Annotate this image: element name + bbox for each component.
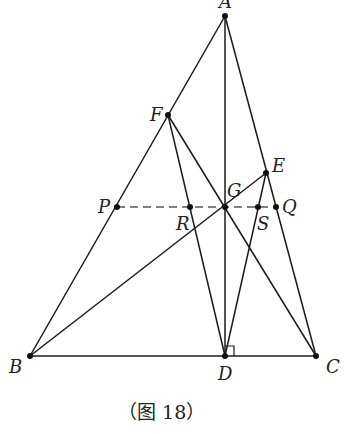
point-S <box>255 204 261 210</box>
segment-FC <box>168 115 316 356</box>
label-E: E <box>271 155 285 176</box>
point-E <box>263 170 269 176</box>
label-R: R <box>175 213 190 234</box>
segment-AB <box>30 16 225 356</box>
point-P <box>114 204 120 210</box>
point-F <box>165 112 171 118</box>
label-F: F <box>149 104 164 125</box>
figure-caption: （图 18） <box>118 401 205 423</box>
label-G: G <box>227 180 241 201</box>
label-D: D <box>217 363 233 384</box>
label-P: P <box>97 196 111 217</box>
point-A <box>222 13 228 19</box>
point-B <box>27 353 33 359</box>
label-Q: Q <box>282 196 297 217</box>
label-A: A <box>217 0 232 12</box>
label-B: B <box>8 356 22 377</box>
point-G <box>222 204 228 210</box>
point-D <box>222 353 228 359</box>
point-C <box>313 353 319 359</box>
point-Q <box>273 204 279 210</box>
geometry-figure: A F E G P R S Q B D C （图 18） <box>0 0 350 434</box>
point-R <box>187 204 193 210</box>
segment-FD <box>168 115 225 356</box>
label-C: C <box>326 356 340 377</box>
label-S: S <box>257 213 269 234</box>
